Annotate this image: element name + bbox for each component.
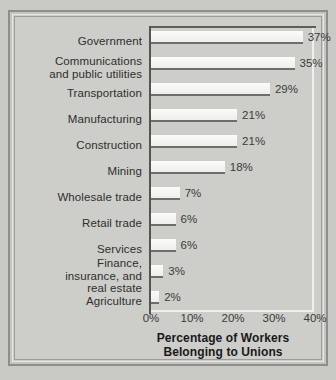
bar-category-label-line: Services [0, 243, 142, 256]
bar-category-label-line: Agriculture [0, 295, 142, 308]
bar-fill [151, 161, 225, 172]
bar-category-label: Transportation [0, 87, 142, 100]
bar-edge-line [151, 224, 176, 226]
bar-category-label: Wholesale trade [0, 191, 142, 204]
bar-fill [151, 187, 180, 198]
bar-category-label: Agriculture [0, 295, 142, 308]
bar-edge-line [151, 172, 225, 174]
bar-row: Government37% [18, 28, 318, 54]
bar [151, 57, 295, 77]
bar-category-label-line: Mining [0, 165, 142, 178]
bar [151, 239, 176, 259]
bar-edge-line [151, 146, 237, 148]
bar-fill [151, 265, 163, 276]
bar-value-label: 2% [164, 291, 181, 303]
bar-fill [151, 83, 270, 94]
bar-fill [151, 109, 237, 120]
bar-edge-line [151, 42, 303, 44]
bar-value-label: 7% [185, 187, 202, 199]
bar-row: Transportation29% [18, 80, 318, 106]
bar [151, 109, 237, 129]
bar-category-label-line: Manufacturing [0, 113, 142, 126]
bar [151, 291, 159, 311]
bar-edge-line [151, 250, 176, 252]
bar-category-label: Construction [0, 139, 142, 152]
bar-row: Agriculture2% [18, 288, 318, 314]
bar-fill [151, 291, 159, 302]
bar-category-label-line: and public utilities [0, 68, 142, 81]
bar [151, 265, 163, 285]
bar-edge-line [151, 276, 163, 278]
bar-fill [151, 239, 176, 250]
bar-chart-plot: Government37%Communicationsand public ut… [18, 20, 318, 356]
bar-category-label-line: insurance, and [0, 270, 142, 283]
bar [151, 161, 225, 181]
bar-value-label: 3% [168, 265, 185, 277]
bar [151, 31, 303, 51]
x-axis: 0%10%20%30%40% [18, 312, 318, 332]
bar-row: Construction21% [18, 132, 318, 158]
bar-category-label-line: Finance, [0, 257, 142, 270]
bar-fill [151, 135, 237, 146]
chart-title-line-1: Percentage of Workers [128, 332, 318, 346]
bar [151, 135, 237, 155]
bar-row: Communicationsand public utilities35% [18, 54, 318, 80]
bar-category-label-line: Retail trade [0, 217, 142, 230]
bar [151, 187, 180, 207]
x-axis-tick-label: 10% [180, 312, 203, 324]
figure: Government37%Communicationsand public ut… [0, 0, 336, 380]
bar-value-label: 21% [242, 135, 265, 147]
bar-category-label: Services [0, 243, 142, 256]
bar-category-label-line: Wholesale trade [0, 191, 142, 204]
bar-row: Manufacturing21% [18, 106, 318, 132]
bar-value-label: 6% [181, 239, 198, 251]
x-axis-tick-label: 20% [221, 312, 244, 324]
bar-edge-line [151, 68, 295, 70]
bar-value-label: 37% [308, 31, 331, 43]
bar-value-label: 6% [181, 213, 198, 225]
x-axis-tick-label: 40% [303, 312, 326, 324]
bar-category-label-line: Government [0, 35, 142, 48]
bar-value-label: 35% [300, 57, 323, 69]
bar [151, 213, 176, 233]
bar-value-label: 18% [230, 161, 253, 173]
bar-category-label: Retail trade [0, 217, 142, 230]
bar-row: Finance,insurance, andreal estate3% [18, 262, 318, 288]
bar [151, 83, 270, 103]
bar-fill [151, 31, 303, 42]
bar-category-label-line: Transportation [0, 87, 142, 100]
bar-category-label: Mining [0, 165, 142, 178]
bar-fill [151, 213, 176, 224]
bar-edge-line [151, 94, 270, 96]
bar-row: Wholesale trade7% [18, 184, 318, 210]
x-axis-tick-label: 0% [143, 312, 160, 324]
bar-edge-line [151, 120, 237, 122]
bar-category-label-line: Construction [0, 139, 142, 152]
bar-category-label: Government [0, 35, 142, 48]
bar-edge-line [151, 302, 159, 304]
bar-fill [151, 57, 295, 68]
bar-value-label: 21% [242, 109, 265, 121]
bar-category-label: Manufacturing [0, 113, 142, 126]
bar-row: Mining18% [18, 158, 318, 184]
bar-row: Retail trade6% [18, 210, 318, 236]
chart-title: Percentage of Workers Belonging to Union… [128, 332, 318, 359]
bar-category-label-line: Communications [0, 55, 142, 68]
bar-category-label: Communicationsand public utilities [0, 55, 142, 80]
chart-title-line-2: Belonging to Unions [128, 346, 318, 360]
bar-edge-line [151, 198, 180, 200]
x-axis-tick-label: 30% [262, 312, 285, 324]
bar-value-label: 29% [275, 83, 298, 95]
